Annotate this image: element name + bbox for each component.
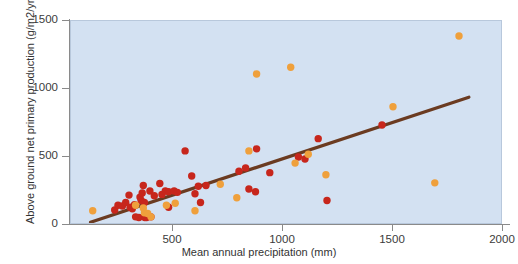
data-point [291, 159, 298, 166]
data-point [125, 191, 132, 198]
x-tick-500 [172, 224, 173, 231]
data-point [191, 207, 198, 214]
data-point [174, 189, 181, 196]
data-point [389, 103, 396, 110]
y-axis-title: Above ground net primary production (g/m… [24, 0, 36, 226]
data-point [315, 135, 322, 142]
data-point [245, 185, 252, 192]
plot-area [70, 20, 502, 224]
data-point [431, 179, 438, 186]
data-points-group [89, 32, 463, 221]
data-point [202, 182, 209, 189]
data-point [217, 181, 224, 188]
x-tick-1000 [282, 224, 283, 231]
data-point [163, 202, 170, 209]
data-point [305, 151, 312, 158]
data-point [197, 199, 204, 206]
data-point [188, 172, 195, 179]
data-point [132, 202, 139, 209]
data-point [242, 164, 249, 171]
x-tick-label-1500: 1500 [367, 233, 417, 245]
x-tick-label-2000: 2000 [477, 233, 518, 245]
x-tick-2000 [502, 224, 503, 231]
data-point [147, 213, 154, 220]
data-point [253, 145, 260, 152]
data-point [266, 169, 273, 176]
data-point [140, 182, 147, 189]
data-point [156, 180, 163, 187]
plot-svg [71, 21, 502, 224]
data-point [252, 188, 259, 195]
data-point [151, 192, 158, 199]
data-point [191, 190, 198, 197]
x-tick-label-500: 500 [147, 233, 197, 245]
data-point [253, 70, 260, 77]
data-point [235, 168, 242, 175]
data-point [195, 183, 202, 190]
data-point [322, 171, 329, 178]
scatter-chart-figure: 050010001500 500100015002000 Above groun… [0, 0, 518, 264]
x-axis-title: Mean annual precipitation (mm) [0, 246, 518, 258]
data-point [181, 147, 188, 154]
data-point [139, 189, 146, 196]
data-point [455, 32, 462, 39]
x-tick-label-1000: 1000 [257, 233, 307, 245]
data-point [287, 64, 294, 71]
data-point [89, 207, 96, 214]
data-point [245, 147, 252, 154]
x-tick-1500 [392, 224, 393, 231]
data-point [323, 197, 330, 204]
data-point [233, 194, 240, 201]
data-point [378, 121, 385, 128]
data-point [172, 200, 179, 207]
